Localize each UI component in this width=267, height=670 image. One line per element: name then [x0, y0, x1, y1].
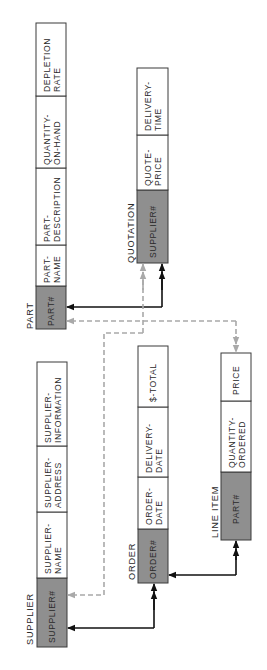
- field-label: ORDER#: [148, 540, 158, 579]
- table-title-line-item: LINE ITEM: [210, 486, 220, 538]
- field-label: PART#: [46, 296, 56, 326]
- field-label: INFORMATION: [53, 377, 63, 443]
- table-line-item: LINE ITEM PART# QUANTITY- ORDERED PRICE: [210, 353, 251, 540]
- link-part-quotation: [67, 264, 162, 307]
- field-label: PART-: [42, 255, 52, 283]
- field-label: RATE: [52, 67, 62, 92]
- field-label: PART#: [231, 494, 241, 524]
- field-label: SUPPLIER-: [43, 457, 53, 508]
- field-label: SUPPLIER-: [43, 523, 53, 574]
- field-label: DELIVERY-: [144, 423, 154, 473]
- field-label: QUOTE-: [143, 149, 153, 186]
- table-supplier: SUPPLIER SUPPLIER# SUPPLIER- NAME SUPPLI…: [25, 362, 67, 647]
- table-title-quotation: QUOTATION: [126, 203, 136, 263]
- field-label: ORDER-: [144, 488, 154, 526]
- field-label: DATE: [154, 500, 164, 525]
- data-structure-diagram: PART PART# PART- NAME PART- DESCRIPTION …: [0, 0, 267, 670]
- table-part: PART PART# PART- NAME PART- DESCRIPTION …: [25, 23, 66, 329]
- field-label: DEPLETION: [42, 38, 52, 92]
- field-label: ADDRESS: [53, 462, 63, 508]
- field-label: NAME: [53, 547, 63, 574]
- field-label: DELIVERY-: [143, 81, 153, 131]
- field-label: SUPPLIER#: [47, 590, 57, 643]
- link-order-line-item: [169, 541, 236, 575]
- field-label: TIME: [153, 108, 163, 131]
- field-label: ON-HAND: [52, 121, 62, 165]
- table-title-supplier: SUPPLIER: [25, 593, 35, 645]
- field-label: NAME: [52, 256, 62, 283]
- table-quotation: QUOTATION SUPPLIER# QUOTE- PRICE DELIVER…: [126, 68, 168, 263]
- field-label: ORDERED: [237, 421, 247, 468]
- table-title-order: ORDER: [127, 543, 137, 580]
- field-label: PART-: [42, 214, 52, 242]
- field-label: QUANTITY-: [227, 417, 237, 468]
- field-label: SUPPLIER-: [43, 392, 53, 443]
- field-label: SUPPLIER#: [148, 205, 158, 258]
- field-label: PRICE: [231, 366, 241, 395]
- link-supplier-order: [68, 584, 154, 628]
- field-label: DESCRIPTION: [52, 177, 62, 242]
- field-label: PRICE: [153, 157, 163, 186]
- field-label: QUANTITY-: [42, 114, 52, 165]
- field-label: DATE: [154, 448, 164, 473]
- table-title-part: PART: [25, 302, 35, 329]
- table-order: ORDER ORDER# ORDER- DATE DELIVERY- DATE …: [127, 346, 168, 583]
- field-label: $-TOTAL: [148, 363, 158, 402]
